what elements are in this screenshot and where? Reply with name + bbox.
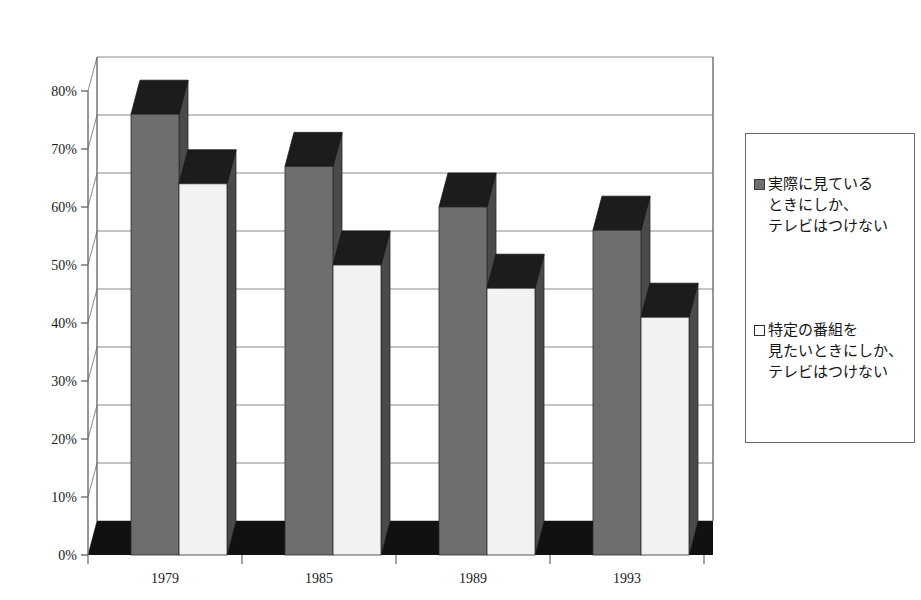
y-axis-tick-marks — [81, 91, 88, 555]
y-axis-tick-label: 20% — [51, 432, 77, 447]
y-axis-tick-label: 60% — [51, 200, 77, 215]
y-axis-tick-label: 50% — [51, 258, 77, 273]
y-axis-tick-label: 30% — [51, 374, 77, 389]
legend-item-series-2[interactable]: 特定の番組を 見たいときにしか、 テレビはつけない — [754, 320, 903, 383]
legend-label-series-2: 特定の番組を 見たいときにしか、 テレビはつけない — [768, 320, 903, 383]
y-axis-tick-label: 80% — [51, 84, 77, 99]
x-axis-tick-label: 1985 — [305, 571, 333, 586]
y-axis-tick-label: 40% — [51, 316, 77, 331]
y-axis-labels: 0%10%20%30%40%50%60%70%80% — [51, 84, 77, 563]
legend-label-series-1: 実際に見ている ときにしか、 テレビはつけない — [768, 174, 888, 237]
y-axis-tick-label: 10% — [51, 490, 77, 505]
x-axis-tick-label: 1979 — [151, 571, 179, 586]
x-axis-tick-marks — [88, 555, 704, 564]
legend: 実際に見ている ときにしか、 テレビはつけない 特定の番組を 見たいときにしか、… — [745, 133, 915, 443]
legend-swatch-dark-icon — [754, 179, 765, 190]
chart-container: 0%10%20%30%40%50%60%70%80% 1979198519891… — [0, 0, 921, 600]
x-axis-labels: 1979198519891993 — [151, 571, 641, 586]
y-axis-tick-label: 70% — [51, 142, 77, 157]
legend-item-series-1[interactable]: 実際に見ている ときにしか、 テレビはつけない — [754, 174, 888, 237]
x-axis-tick-label: 1989 — [459, 571, 487, 586]
y-axis-tick-label: 0% — [58, 548, 77, 563]
x-axis-tick-label: 1993 — [613, 571, 641, 586]
legend-swatch-light-icon — [754, 325, 765, 336]
bars — [131, 80, 698, 555]
